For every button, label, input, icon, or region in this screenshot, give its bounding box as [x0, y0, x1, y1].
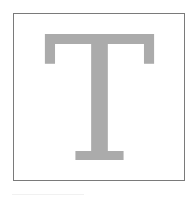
- letter-glyph-container: T: [14, 14, 184, 180]
- letter-tile: T: [13, 13, 185, 181]
- divider: [12, 194, 84, 195]
- letter-glyph: T: [43, 15, 155, 187]
